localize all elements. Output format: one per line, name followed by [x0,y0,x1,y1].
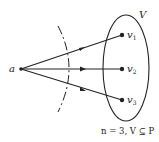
node-v3-label: v3 [127,94,137,106]
node-v1-label: v1 [127,29,136,41]
node-v3 [120,98,124,102]
edge-a-v3 [21,69,122,100]
set-label: V [139,9,148,20]
source-label: a [9,63,15,74]
set-v-ellipse [103,15,149,121]
arrow-icon [80,67,86,72]
node-v1 [120,33,124,37]
node-v2 [120,67,124,71]
edge-a-v1 [21,35,122,69]
caption: n = 3, V ⊆ P [101,126,154,136]
node-v2-label: v2 [127,63,137,75]
diagram-canvas: a v1 v2 v3 V n = 3, V ⊆ P [0,0,159,142]
source-node-a [19,67,23,71]
arrow-icon [79,47,85,51]
